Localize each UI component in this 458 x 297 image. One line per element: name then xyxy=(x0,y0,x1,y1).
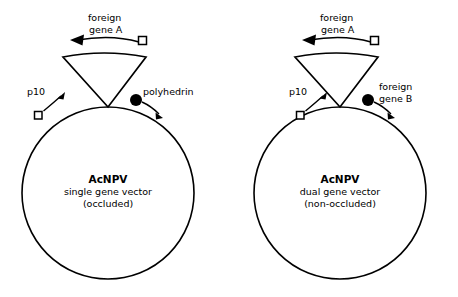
panel-left: foreign gene A p10 polyhedrin AcNPV sing… xyxy=(22,12,194,279)
foreign-gene-a-arrowhead-left xyxy=(70,35,84,46)
foreign-gene-b-marker-right xyxy=(362,94,374,106)
foreign-gene-b-label-line1-right: foreign xyxy=(379,81,412,92)
genome-subtitle-left: single gene vector xyxy=(64,186,152,197)
polyhedrin-label-line1-left: polyhedrin xyxy=(143,86,194,97)
foreign-gene-a-label-line1-left: foreign xyxy=(88,12,121,23)
diagram-canvas: foreign gene A p10 polyhedrin AcNPV sing… xyxy=(0,0,458,297)
foreign-gene-a-arrowhead-right xyxy=(302,35,316,46)
genome-status-right: (non-occluded) xyxy=(304,198,376,209)
foreign-gene-a-arrow-left xyxy=(77,37,139,42)
p10-promoter-square-left xyxy=(35,112,43,120)
polyhedrin-arrow-left xyxy=(142,102,159,114)
foreign-gene-a-promoter-square-right xyxy=(371,37,379,45)
foreign-gene-a-promoter-square-left xyxy=(139,37,147,45)
baculovirus-vector-diagram: foreign gene A p10 polyhedrin AcNPV sing… xyxy=(0,0,458,297)
foreign-gene-a-label-line2-right: gene A xyxy=(321,24,355,35)
genome-subtitle-right: dual gene vector xyxy=(300,186,381,197)
panel-right: foreign gene A p10 foreign gene B AcNPV … xyxy=(254,12,426,279)
foreign-gene-b-label-line2-right: gene B xyxy=(379,93,412,104)
foreign-gene-a-arrow-right xyxy=(309,37,371,42)
genome-title-right: AcNPV xyxy=(321,173,361,185)
foreign-gene-a-label-line2-left: gene A xyxy=(89,24,123,35)
p10-promoter-square-right xyxy=(297,112,305,120)
p10-label-right: p10 xyxy=(289,86,307,97)
p10-label-left: p10 xyxy=(27,86,45,97)
genome-title-left: AcNPV xyxy=(89,173,129,185)
p10-arrowhead-left xyxy=(58,92,66,100)
foreign-gene-a-label-line1-right: foreign xyxy=(320,12,353,23)
p10-arrowhead-right xyxy=(320,92,328,100)
polyhedrin-marker-left xyxy=(130,94,142,106)
genome-status-left: (occluded) xyxy=(83,198,133,209)
